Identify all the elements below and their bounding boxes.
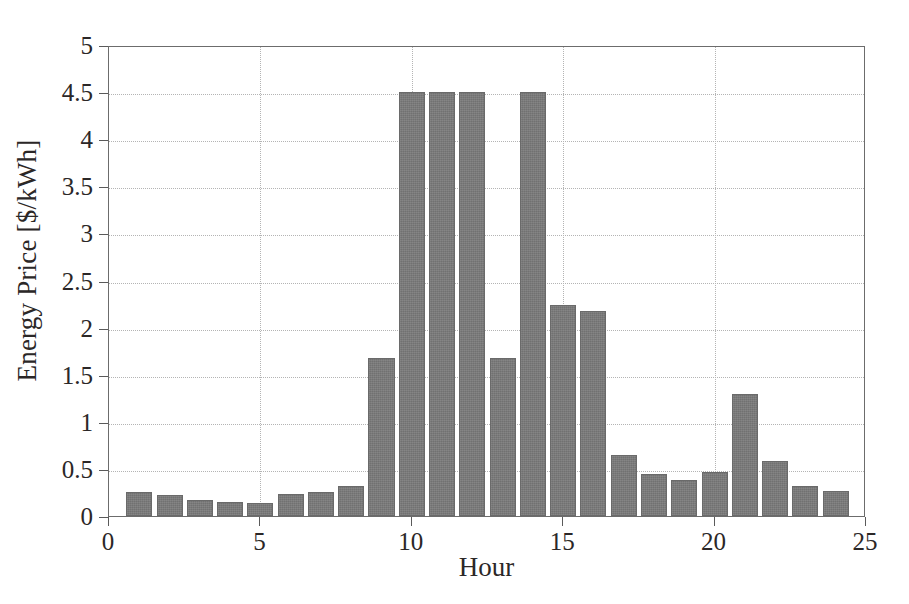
gridline-horizontal xyxy=(109,141,864,142)
bar xyxy=(399,92,425,516)
y-axis-title-container: Energy Price [$/kWh] xyxy=(0,0,56,520)
bar xyxy=(490,358,516,516)
y-tick-mark xyxy=(99,46,108,47)
bar xyxy=(217,502,243,516)
y-tick-mark xyxy=(99,470,108,471)
bar xyxy=(550,305,576,516)
y-tick-mark xyxy=(99,423,108,424)
bar xyxy=(762,461,788,516)
bar xyxy=(671,480,697,516)
gridline-horizontal xyxy=(109,188,864,189)
y-tick-label: 1.5 xyxy=(23,363,93,388)
x-tick-label: 5 xyxy=(229,529,289,554)
gridline-vertical xyxy=(260,47,261,516)
x-tick-label: 25 xyxy=(835,529,895,554)
x-tick-mark xyxy=(865,517,866,526)
y-tick-mark xyxy=(99,187,108,188)
x-tick-label: 15 xyxy=(532,529,592,554)
bar xyxy=(641,474,667,516)
bar xyxy=(247,503,273,516)
bar xyxy=(823,491,849,516)
gridline-horizontal xyxy=(109,94,864,95)
bar xyxy=(338,486,364,516)
x-tick-mark xyxy=(562,517,563,526)
bar xyxy=(308,492,334,516)
y-tick-mark xyxy=(99,140,108,141)
x-tick-label: 10 xyxy=(381,529,441,554)
gridline-vertical xyxy=(715,47,716,516)
bar xyxy=(702,472,728,516)
y-tick-label: 5 xyxy=(23,33,93,58)
x-tick-mark xyxy=(411,517,412,526)
bar xyxy=(732,394,758,516)
y-tick-mark xyxy=(99,282,108,283)
y-tick-label: 0 xyxy=(23,504,93,529)
bar xyxy=(520,92,546,516)
y-tick-label: 4 xyxy=(23,127,93,152)
bar xyxy=(157,495,183,516)
y-tick-label: 4.5 xyxy=(23,80,93,105)
x-tick-mark xyxy=(714,517,715,526)
plot-inner xyxy=(109,47,864,516)
bar xyxy=(187,500,213,516)
bar xyxy=(429,92,455,516)
x-tick-label: 0 xyxy=(78,529,138,554)
bar xyxy=(792,486,818,516)
bar xyxy=(580,311,606,516)
x-axis-title: Hour xyxy=(108,552,865,583)
gridline-horizontal xyxy=(109,377,864,378)
y-tick-mark xyxy=(99,234,108,235)
y-tick-label: 2.5 xyxy=(23,269,93,294)
gridline-horizontal xyxy=(109,330,864,331)
bar xyxy=(368,358,394,516)
y-tick-label: 0.5 xyxy=(23,457,93,482)
bar xyxy=(278,494,304,516)
x-tick-mark xyxy=(259,517,260,526)
y-tick-label: 3 xyxy=(23,221,93,246)
gridline-horizontal xyxy=(109,235,864,236)
gridline-horizontal xyxy=(109,283,864,284)
bar xyxy=(611,455,637,516)
y-tick-mark xyxy=(99,517,108,518)
y-tick-mark xyxy=(99,329,108,330)
y-tick-label: 3.5 xyxy=(23,174,93,199)
y-tick-mark xyxy=(99,93,108,94)
y-tick-mark xyxy=(99,376,108,377)
y-tick-label: 2 xyxy=(23,316,93,341)
plot-area xyxy=(108,46,865,517)
x-tick-mark xyxy=(108,517,109,526)
bar xyxy=(459,92,485,516)
bar xyxy=(126,492,152,516)
x-tick-label: 20 xyxy=(684,529,744,554)
energy-price-bar-chart: Energy Price [$/kWh] 00.511.522.533.544.… xyxy=(0,0,909,604)
y-tick-label: 1 xyxy=(23,410,93,435)
